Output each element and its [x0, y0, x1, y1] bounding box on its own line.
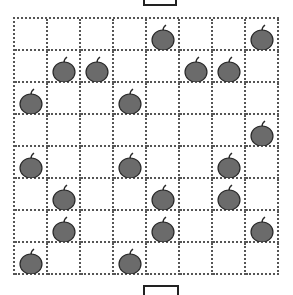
apple-icon	[151, 184, 175, 208]
grid-cell-r7-c0[interactable]	[15, 243, 48, 275]
grid-cell-r3-c7[interactable]	[246, 115, 279, 147]
apple-icon	[118, 152, 142, 176]
grid-cell-r4-c7[interactable]	[246, 147, 279, 179]
top-entry-box	[143, 0, 177, 6]
grid-cell-r6-c3[interactable]	[114, 211, 147, 243]
grid-cell-r0-c4[interactable]	[147, 19, 180, 51]
grid-cell-r3-c5[interactable]	[180, 115, 213, 147]
grid-cell-r2-c0[interactable]	[15, 83, 48, 115]
grid-cell-r2-c7[interactable]	[246, 83, 279, 115]
grid-cell-r2-c2[interactable]	[81, 83, 114, 115]
grid-cell-r4-c4[interactable]	[147, 147, 180, 179]
apple-grid	[13, 17, 279, 275]
apple-icon	[52, 216, 76, 240]
grid-cell-r0-c7[interactable]	[246, 19, 279, 51]
grid-cell-r0-c5[interactable]	[180, 19, 213, 51]
grid-cell-r5-c6[interactable]	[213, 179, 246, 211]
grid-cell-r6-c6[interactable]	[213, 211, 246, 243]
grid-cell-r3-c2[interactable]	[81, 115, 114, 147]
grid-cell-r7-c2[interactable]	[81, 243, 114, 275]
grid-cell-r2-c4[interactable]	[147, 83, 180, 115]
grid-cell-r1-c4[interactable]	[147, 51, 180, 83]
grid-cell-r4-c1[interactable]	[48, 147, 81, 179]
grid-cell-r6-c2[interactable]	[81, 211, 114, 243]
apple-icon	[151, 24, 175, 48]
grid-cell-r0-c3[interactable]	[114, 19, 147, 51]
grid-cell-r3-c1[interactable]	[48, 115, 81, 147]
grid-cell-r5-c1[interactable]	[48, 179, 81, 211]
grid-cell-r5-c2[interactable]	[81, 179, 114, 211]
apple-icon	[52, 184, 76, 208]
grid-cell-r5-c3[interactable]	[114, 179, 147, 211]
apple-icon	[217, 152, 241, 176]
grid-cell-r4-c3[interactable]	[114, 147, 147, 179]
bottom-exit-box	[143, 285, 179, 295]
grid-cell-r3-c6[interactable]	[213, 115, 246, 147]
apple-icon	[19, 88, 43, 112]
grid-cell-r3-c3[interactable]	[114, 115, 147, 147]
grid-cell-r1-c6[interactable]	[213, 51, 246, 83]
grid-cell-r6-c1[interactable]	[48, 211, 81, 243]
grid-cell-r3-c0[interactable]	[15, 115, 48, 147]
grid-cell-r7-c7[interactable]	[246, 243, 279, 275]
apple-icon	[217, 184, 241, 208]
grid-cell-r6-c7[interactable]	[246, 211, 279, 243]
grid-cell-r0-c0[interactable]	[15, 19, 48, 51]
grid-cell-r6-c4[interactable]	[147, 211, 180, 243]
apple-icon	[250, 120, 274, 144]
apple-icon	[250, 216, 274, 240]
grid-cell-r2-c5[interactable]	[180, 83, 213, 115]
apple-icon	[118, 248, 142, 272]
apple-icon	[184, 56, 208, 80]
grid-cell-r2-c1[interactable]	[48, 83, 81, 115]
apple-icon	[151, 216, 175, 240]
grid-cell-r5-c7[interactable]	[246, 179, 279, 211]
apple-icon	[19, 152, 43, 176]
apple-icon	[52, 56, 76, 80]
grid-cell-r4-c6[interactable]	[213, 147, 246, 179]
grid-cell-r7-c5[interactable]	[180, 243, 213, 275]
grid-cell-r0-c1[interactable]	[48, 19, 81, 51]
grid-cell-r2-c3[interactable]	[114, 83, 147, 115]
grid-cell-r1-c0[interactable]	[15, 51, 48, 83]
grid-cell-r5-c5[interactable]	[180, 179, 213, 211]
apple-icon	[217, 56, 241, 80]
apple-icon	[19, 248, 43, 272]
grid-cell-r5-c0[interactable]	[15, 179, 48, 211]
grid-cell-r2-c6[interactable]	[213, 83, 246, 115]
apple-icon	[85, 56, 109, 80]
grid-cell-r4-c5[interactable]	[180, 147, 213, 179]
grid-cell-r6-c5[interactable]	[180, 211, 213, 243]
grid-cell-r7-c4[interactable]	[147, 243, 180, 275]
apple-icon	[250, 24, 274, 48]
grid-cell-r1-c5[interactable]	[180, 51, 213, 83]
grid-cell-r5-c4[interactable]	[147, 179, 180, 211]
grid-cell-r6-c0[interactable]	[15, 211, 48, 243]
grid-cell-r1-c1[interactable]	[48, 51, 81, 83]
grid-cell-r1-c2[interactable]	[81, 51, 114, 83]
grid-cell-r0-c2[interactable]	[81, 19, 114, 51]
grid-cell-r4-c2[interactable]	[81, 147, 114, 179]
grid-cell-r7-c6[interactable]	[213, 243, 246, 275]
grid-cell-r7-c3[interactable]	[114, 243, 147, 275]
grid-cell-r1-c3[interactable]	[114, 51, 147, 83]
grid-cell-r7-c1[interactable]	[48, 243, 81, 275]
grid-cell-r3-c4[interactable]	[147, 115, 180, 147]
grid-cell-r0-c6[interactable]	[213, 19, 246, 51]
grid-cell-r1-c7[interactable]	[246, 51, 279, 83]
grid-cell-r4-c0[interactable]	[15, 147, 48, 179]
apple-icon	[118, 88, 142, 112]
